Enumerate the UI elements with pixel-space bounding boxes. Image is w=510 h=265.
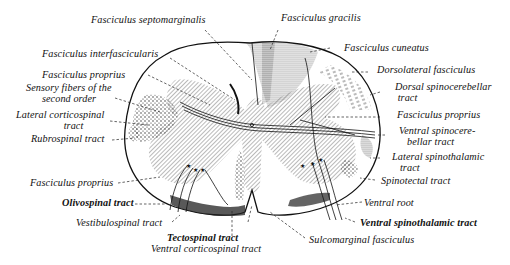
label-fasciculus-cuneatus: Fasciculus cuneatus — [344, 43, 429, 54]
label-sulcomarginal: Sulcomarginal fasciculus — [309, 235, 414, 246]
svg-text:★: ★ — [186, 163, 191, 169]
label-fasciculus-proprius-right: Fasciculus proprius — [397, 110, 480, 121]
svg-text:★: ★ — [300, 163, 305, 169]
label-sensory-fibers: Sensory fibers of the second order — [26, 83, 112, 104]
label-vestibulospinal: Vestibulospinal tract — [76, 218, 162, 229]
label-fasciculus-proprius-lower-left: Fasciculus proprius — [30, 178, 113, 189]
label-dorsal-spinocerebellar: Dorsal spinocerebellar tract — [395, 82, 492, 103]
label-ventral-spinothalamic: Ventral spinothalamic tract — [360, 218, 477, 229]
label-fasciculus-proprius-upper-left: Fasciculus proprius — [42, 70, 125, 81]
label-tectospinal: Tectospinal tract — [167, 233, 238, 244]
svg-text:★: ★ — [310, 161, 315, 167]
label-fasciculus-gracilis: Fasciculus gracilis — [281, 13, 361, 24]
svg-text:★: ★ — [193, 167, 198, 173]
label-dorsolateral-fasciculus: Dorsolateral fasciculus — [377, 65, 475, 76]
svg-text:★: ★ — [200, 167, 205, 173]
label-spinotectal: Spinotectal tract — [381, 176, 450, 187]
ventral-spinocerebellar-region — [360, 135, 372, 158]
label-ventral-root: Ventral root — [364, 198, 414, 209]
label-fasciculus-septomarginalis: Fasciculus septomarginalis — [91, 15, 206, 26]
label-olivospinal: Olivospinal tract — [62, 198, 134, 209]
label-ventral-spinocerebellar: Ventral spinocere- bellar tract — [399, 126, 475, 147]
label-fasciculus-interfascicularis: Fasciculus interfascicularis — [42, 49, 158, 60]
label-rubrospinal: Rubrospinal tract — [31, 134, 105, 145]
svg-text:★: ★ — [318, 157, 323, 163]
ventral-band-left — [170, 195, 245, 216]
label-ventral-corticospinal: Ventral corticospinal tract — [151, 244, 261, 255]
spinotectal-region — [341, 160, 358, 178]
label-lateral-corticospinal: Lateral corticospinal tract — [16, 110, 104, 131]
label-lateral-spinothalamic: Lateral spinothalamic tract — [392, 152, 484, 173]
